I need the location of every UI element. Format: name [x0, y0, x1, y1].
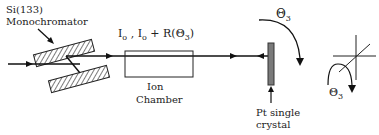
monochromator-lower-crystal	[48, 65, 109, 92]
axes-rotation-arc	[328, 64, 352, 85]
monochromator-label-line1: Si(133)	[6, 4, 43, 15]
beam-arrow-icon-2	[230, 53, 237, 59]
ion-chamber-label-line2: Chamber	[136, 94, 183, 105]
theta3-rotation-arrowhead	[296, 58, 304, 66]
axis-diagonal	[339, 44, 370, 72]
theta3-rotation-arc	[259, 20, 300, 58]
beamline-diagram: Si(133) Monochromator Ion Chamber Io , I…	[0, 0, 379, 135]
pt-single-crystal	[268, 43, 274, 85]
intensity-label: Io , Io + R(Θ3)	[118, 27, 194, 42]
axes-theta3-label: Θ3	[329, 86, 343, 101]
monochromator-upper-crystal	[33, 39, 94, 66]
ion-chamber-box	[125, 51, 193, 77]
theta3-rotation-label: Θ3	[276, 7, 291, 23]
incident-beam-arrow-icon	[26, 61, 33, 67]
crystal-pointer-arrowhead	[268, 86, 274, 92]
reflected-beam-arrow-icon	[257, 53, 264, 59]
beam-arrow-icon-1	[106, 53, 113, 59]
ion-chamber-label-line1: Ion	[147, 81, 164, 92]
crystal-label-line1: Pt single	[256, 107, 300, 118]
crystal-label-line2: crystal	[256, 119, 290, 130]
monochromator-label-line2: Monochromator	[6, 16, 88, 27]
axes-rotation-arrowhead	[348, 85, 356, 93]
